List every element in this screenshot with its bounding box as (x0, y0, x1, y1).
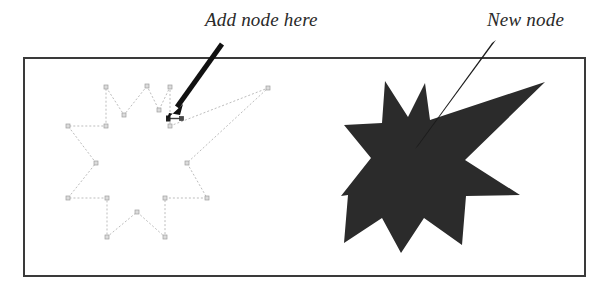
node-handle[interactable] (163, 235, 167, 239)
node-handle[interactable] (157, 108, 161, 112)
node-handle[interactable] (66, 124, 70, 128)
node-handle[interactable] (266, 86, 270, 90)
node-handle[interactable] (185, 161, 189, 165)
node-handle[interactable] (145, 84, 149, 88)
figure-root: Add node here New node (0, 0, 607, 288)
node-handle[interactable] (135, 210, 139, 214)
node-handle[interactable] (168, 124, 172, 128)
annotation-label-add-node: Add node here (205, 9, 318, 31)
node-handle[interactable] (122, 113, 126, 117)
node-handle[interactable] (66, 196, 70, 200)
node-handle[interactable] (105, 196, 109, 200)
node-handle[interactable] (163, 196, 167, 200)
node-handle[interactable] (205, 196, 209, 200)
illustration-canvas (0, 0, 607, 288)
control-handle-end[interactable] (180, 117, 184, 121)
annotation-label-new-node: New node (487, 9, 564, 31)
node-handle[interactable] (168, 85, 172, 89)
node-handle[interactable] (104, 85, 108, 89)
node-handle[interactable] (105, 235, 109, 239)
illustration-frame (24, 58, 585, 276)
node-handle[interactable] (94, 161, 98, 165)
node-handle[interactable] (104, 124, 108, 128)
